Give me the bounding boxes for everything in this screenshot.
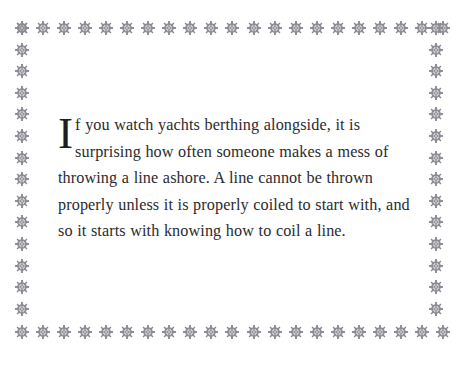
paragraph-text: f you watch yachts berthing alongside, i…: [58, 116, 410, 240]
rosette-ornament-icon: [225, 325, 239, 339]
rosette-ornament-icon: [57, 21, 71, 35]
rosette-ornament-icon: [15, 107, 29, 121]
rosette-ornament-icon: [436, 325, 450, 339]
rosette-ornament-icon: [141, 325, 155, 339]
rosette-ornament-icon: [204, 325, 218, 339]
rosette-ornament-icon: [36, 21, 50, 35]
rosette-ornament-icon: [15, 280, 29, 294]
rosette-ornament-icon: [247, 325, 261, 339]
rosette-ornament-icon: [15, 325, 29, 339]
rosette-ornament-icon: [429, 215, 443, 229]
rosette-ornament-icon: [15, 172, 29, 186]
rosette-ornament-icon: [225, 21, 239, 35]
rosette-ornament-icon: [15, 64, 29, 78]
rosette-ornament-icon: [429, 64, 443, 78]
rosette-ornament-icon: [15, 86, 29, 100]
rosette-ornament-icon: [120, 21, 134, 35]
rosette-ornament-icon: [373, 325, 387, 339]
rosette-ornament-icon: [15, 129, 29, 143]
book-page: If you watch yachts berthing alongside, …: [0, 0, 464, 372]
border-top-row: [0, 21, 464, 35]
rosette-ornament-icon: [394, 325, 408, 339]
rosette-ornament-icon: [15, 237, 29, 251]
rosette-ornament-icon: [162, 325, 176, 339]
rosette-ornament-icon: [415, 325, 429, 339]
rosette-ornament-icon: [247, 21, 261, 35]
rosette-ornament-icon: [310, 325, 324, 339]
rosette-ornament-icon: [183, 325, 197, 339]
rosette-ornament-icon: [429, 43, 443, 57]
body-text-block: If you watch yachts berthing alongside, …: [58, 112, 410, 245]
rosette-ornament-icon: [141, 21, 155, 35]
rosette-ornament-icon: [429, 280, 443, 294]
rosette-ornament-icon: [429, 107, 443, 121]
rosette-ornament-icon: [15, 215, 29, 229]
paragraph: If you watch yachts berthing alongside, …: [58, 112, 410, 245]
rosette-ornament-icon: [15, 194, 29, 208]
rosette-ornament-icon: [289, 21, 303, 35]
rosette-ornament-icon: [15, 302, 29, 316]
rosette-ornament-icon: [204, 21, 218, 35]
rosette-ornament-icon: [268, 325, 282, 339]
rosette-ornament-icon: [415, 21, 429, 35]
rosette-ornament-icon: [162, 21, 176, 35]
rosette-ornament-icon: [183, 21, 197, 35]
rosette-ornament-icon: [57, 325, 71, 339]
rosette-ornament-icon: [429, 172, 443, 186]
rosette-ornament-icon: [352, 21, 366, 35]
rosette-ornament-icon: [99, 325, 113, 339]
rosette-ornament-icon: [78, 325, 92, 339]
rosette-ornament-icon: [394, 21, 408, 35]
rosette-ornament-icon: [36, 325, 50, 339]
rosette-ornament-icon: [15, 259, 29, 273]
rosette-ornament-icon: [331, 325, 345, 339]
rosette-ornament-icon: [373, 21, 387, 35]
rosette-ornament-icon: [429, 21, 443, 35]
rosette-ornament-icon: [15, 21, 29, 35]
rosette-ornament-icon: [429, 237, 443, 251]
drop-cap: I: [58, 113, 73, 154]
rosette-ornament-icon: [289, 325, 303, 339]
rosette-ornament-icon: [15, 43, 29, 57]
rosette-ornament-icon: [429, 151, 443, 165]
rosette-ornament-icon: [352, 325, 366, 339]
border-right-column: [429, 21, 443, 339]
rosette-ornament-icon: [268, 21, 282, 35]
rosette-ornament-icon: [120, 325, 134, 339]
rosette-ornament-icon: [429, 194, 443, 208]
rosette-ornament-icon: [429, 302, 443, 316]
rosette-ornament-icon: [15, 151, 29, 165]
rosette-ornament-icon: [331, 21, 345, 35]
rosette-ornament-icon: [429, 259, 443, 273]
border-bottom-row: [0, 325, 464, 339]
border-left-column: [15, 21, 29, 339]
rosette-ornament-icon: [78, 21, 92, 35]
rosette-ornament-icon: [429, 86, 443, 100]
rosette-ornament-icon: [310, 21, 324, 35]
rosette-ornament-icon: [429, 129, 443, 143]
rosette-ornament-icon: [99, 21, 113, 35]
